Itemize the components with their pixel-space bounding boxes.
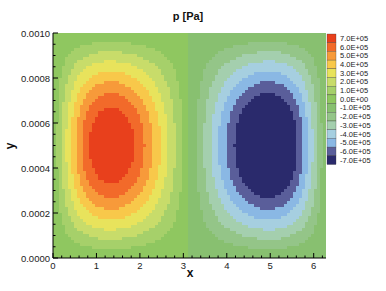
y-tick-label: 0.0010: [21, 28, 50, 39]
y-tick-label: 0.0008: [21, 73, 50, 84]
legend-swatch: [327, 69, 336, 78]
x-tick-label: 4: [224, 260, 229, 271]
legend-label: 0.0E+00: [340, 95, 368, 104]
x-tick-label: 3: [181, 260, 186, 271]
y-tick-label: 0.0004: [21, 163, 50, 174]
legend-label: 4.0E+05: [340, 60, 368, 69]
y-tick-label: 0.0006: [21, 118, 50, 129]
x-tick-label: 5: [268, 260, 273, 271]
color-legend: 7.0E+056.0E+055.0E+054.0E+053.0E+052.0E+…: [327, 34, 371, 165]
legend-label: -7.0E+05: [340, 156, 371, 165]
legend-label: -6.0E+05: [340, 147, 371, 156]
legend-label: 5.0E+05: [340, 51, 368, 60]
legend-label: 7.0E+05: [340, 34, 368, 43]
plot-area: [53, 33, 326, 258]
x-tick-label: 2: [137, 260, 142, 271]
legend-swatch: [327, 147, 336, 156]
legend-swatch: [327, 138, 336, 147]
legend-swatch: [327, 43, 336, 52]
legend-swatch: [327, 34, 336, 43]
x-axis-label: x: [187, 266, 194, 280]
legend-swatch: [327, 86, 336, 95]
legend-label: -4.0E+05: [340, 130, 371, 139]
x-tick-label: 6: [311, 260, 316, 271]
legend-label: 2.0E+05: [340, 77, 368, 86]
contour-plot: p [Pa] 0123456 0.00000.00020.00040.00060…: [0, 0, 386, 291]
y-tick-label: 0.0000: [21, 253, 50, 264]
legend-label: -3.0E+05: [340, 121, 371, 130]
legend-label: 3.0E+05: [340, 69, 368, 78]
legend-label: 1.0E+05: [340, 86, 368, 95]
legend-swatch: [327, 95, 336, 104]
y-tick-label: 0.0002: [21, 208, 50, 219]
x-tick-label: 1: [94, 260, 99, 271]
legend-swatch: [327, 78, 336, 87]
legend-swatch: [327, 130, 336, 139]
legend-swatch: [327, 104, 336, 113]
legend-label: -1.0E+05: [340, 103, 371, 112]
legend-swatch: [327, 121, 336, 130]
legend-swatch: [327, 60, 336, 69]
legend-swatch: [327, 112, 336, 121]
x-tick-label: 0: [50, 260, 55, 271]
legend-swatch: [327, 51, 336, 60]
legend-label: -2.0E+05: [340, 112, 371, 121]
legend-swatch: [327, 156, 336, 165]
chart-title: p [Pa]: [173, 10, 204, 22]
legend-label: -5.0E+05: [340, 138, 371, 147]
legend-label: 6.0E+05: [340, 43, 368, 52]
y-axis-label: y: [3, 142, 17, 149]
